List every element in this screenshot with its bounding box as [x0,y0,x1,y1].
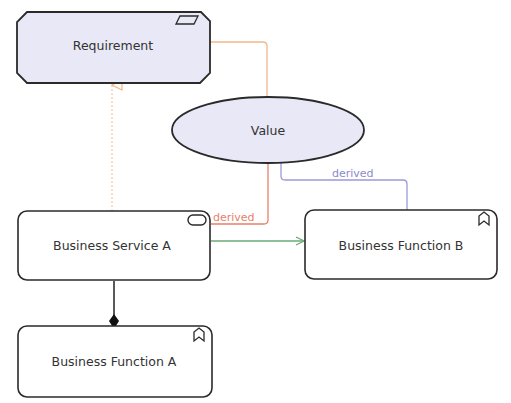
edge-label-derived-function-b: derived [332,167,374,180]
edge-derived-value-function-b[interactable]: derived [281,163,407,210]
node-requirement[interactable]: Requirement [17,12,210,83]
business-service-icon [188,215,206,225]
node-value[interactable]: Value [172,97,364,163]
node-label-business-service-a: Business Service A [53,238,171,253]
node-business-function-b[interactable]: Business Function B [305,210,497,279]
edge-derived-value-service[interactable]: derived [211,163,268,224]
node-business-function-a[interactable]: Business Function A [18,326,212,397]
node-label-value: Value [251,123,286,138]
node-business-service-a[interactable]: Business Service A [18,211,210,280]
edge-composition-service-function-a[interactable] [109,281,119,329]
edge-label-derived-service: derived [213,211,255,224]
edge-requirement-value[interactable] [210,42,267,97]
diagram-canvas: derived derived Requirement Value Busine… [0,0,511,403]
node-label-business-function-b: Business Function B [339,238,464,253]
node-label-requirement: Requirement [73,38,153,53]
node-label-business-function-a: Business Function A [52,354,177,369]
